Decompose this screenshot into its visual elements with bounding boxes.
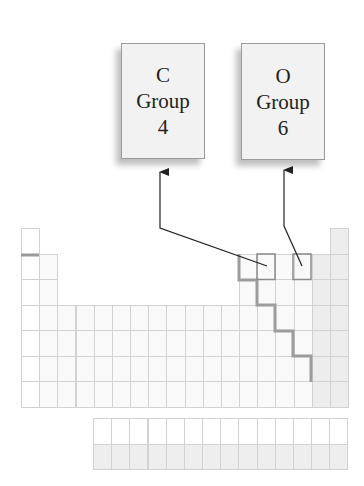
carbon-arrow [160,172,267,266]
diagram-overlay [0,0,364,486]
carbon-cell-highlight [257,254,275,280]
oxygen-arrow [284,170,302,266]
oxygen-cell-highlight [293,254,311,280]
